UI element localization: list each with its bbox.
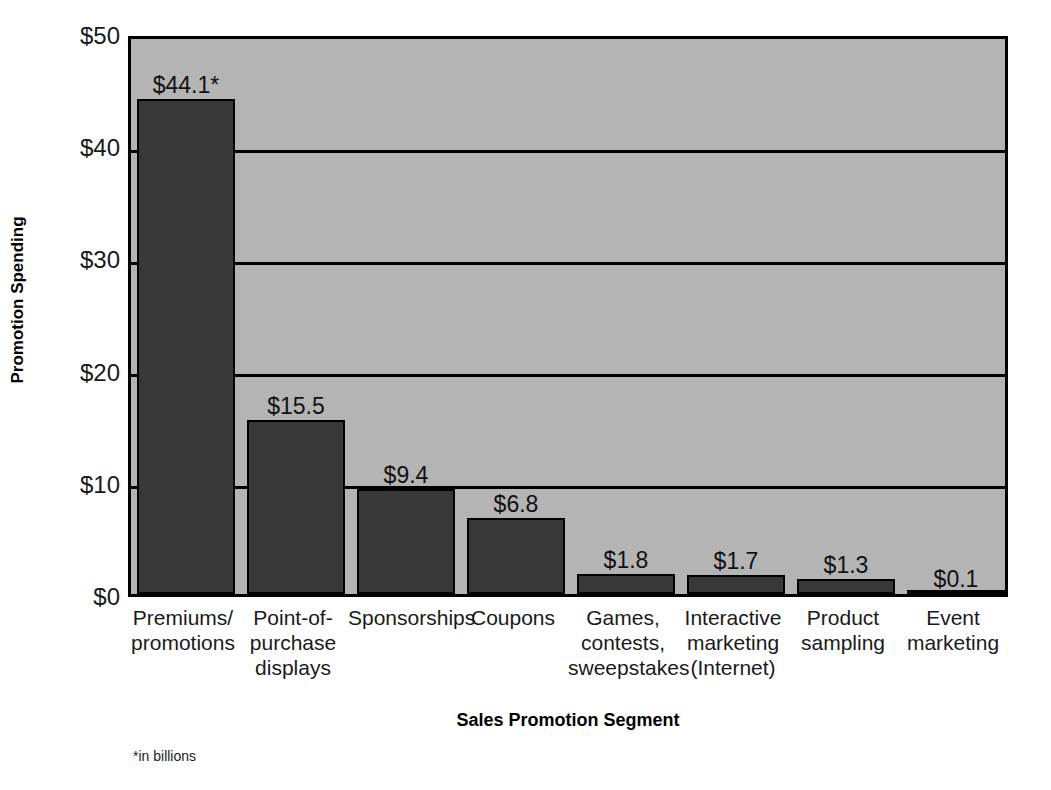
y-axis-title: Promotion Spending — [0, 0, 36, 600]
bar-value-label: $15.5 — [247, 395, 344, 418]
y-axis-tick-label: $0 — [48, 585, 120, 609]
x-axis-tick-label: Coupons — [458, 606, 568, 631]
x-axis-tick-label-line: Point-of- — [238, 606, 348, 631]
x-axis-tick-label-line: Interactive — [678, 606, 788, 631]
bar — [797, 579, 894, 594]
y-axis-tick-label: $50 — [48, 24, 120, 48]
x-axis-tick-label: Interactivemarketing(Internet) — [678, 606, 788, 680]
x-axis-tick-label-line: sampling — [788, 631, 898, 656]
bar — [357, 489, 454, 594]
bar-value-label: $1.3 — [797, 554, 894, 577]
bar — [577, 574, 674, 594]
x-axis-tick-label-line: marketing — [898, 631, 1008, 656]
x-axis-tick-label-line: promotions — [128, 631, 238, 656]
bar-value-label: $1.7 — [687, 550, 784, 573]
bar-value-label: $0.1 — [907, 568, 1004, 591]
x-axis-tick-label-line: purchase — [238, 631, 348, 656]
gridline — [131, 150, 1005, 153]
x-axis-tick-label: Sponsorships — [348, 606, 458, 631]
y-axis-tick-label: $40 — [48, 136, 120, 160]
x-axis-tick-label-line: contests, — [568, 631, 678, 656]
x-axis-tick-label-line: displays — [238, 656, 348, 681]
x-axis-tick-label-line: (Internet) — [678, 656, 788, 681]
plot-inner: $44.1*$15.5$9.4$6.8$1.8$1.7$1.3$0.1 — [131, 39, 1005, 594]
x-axis-tick-label-line: Coupons — [458, 606, 568, 631]
x-axis-tick-label-line: Event — [898, 606, 1008, 631]
bar — [137, 99, 234, 594]
x-axis-tick-label: Premiums/promotions — [128, 606, 238, 656]
bar — [467, 518, 564, 594]
y-axis-tick-label: $10 — [48, 473, 120, 497]
x-axis-tick-label-line: sweepstakes — [568, 656, 678, 681]
x-axis-tick-label: Games,contests,sweepstakes — [568, 606, 678, 680]
x-axis-tick-label: Eventmarketing — [898, 606, 1008, 656]
bar — [687, 575, 784, 594]
x-axis-tick-label: Point-of-purchasedisplays — [238, 606, 348, 680]
x-axis-title: Sales Promotion Segment — [128, 710, 1008, 731]
bar-value-label: $44.1* — [137, 74, 234, 97]
x-axis-tick-label-line: Sponsorships — [348, 606, 458, 631]
y-axis-tick-labels: $0$10$20$30$40$50 — [42, 0, 120, 620]
gridline — [131, 262, 1005, 265]
bar-value-label: $1.8 — [577, 549, 674, 572]
bar-value-label: $6.8 — [467, 493, 564, 516]
x-axis-tick-label-line: marketing — [678, 631, 788, 656]
bar-value-label: $9.4 — [357, 464, 454, 487]
y-axis-title-text: Promotion Spending — [8, 216, 28, 383]
y-axis-tick-label: $20 — [48, 361, 120, 385]
chart-footnote: *in billions — [133, 748, 196, 764]
plot-area: $44.1*$15.5$9.4$6.8$1.8$1.7$1.3$0.1 — [128, 36, 1008, 597]
gridline — [131, 374, 1005, 377]
y-axis-tick-label: $30 — [48, 248, 120, 272]
x-axis-tick-labels: Premiums/promotionsPoint-of-purchasedisp… — [128, 606, 1008, 702]
x-axis-tick-label-line: Product — [788, 606, 898, 631]
x-axis-tick-label: Productsampling — [788, 606, 898, 656]
x-axis-tick-label-line: Games, — [568, 606, 678, 631]
bar — [247, 420, 344, 594]
chart-figure: Promotion Spending $0$10$20$30$40$50 $44… — [0, 0, 1051, 790]
x-axis-tick-label-line: Premiums/ — [128, 606, 238, 631]
